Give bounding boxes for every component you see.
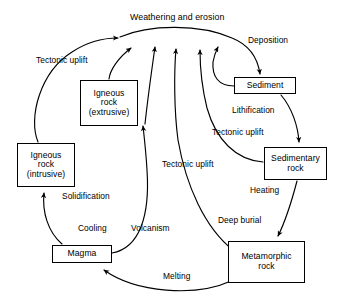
label-heating: Heating bbox=[250, 185, 279, 196]
node-line: Magma bbox=[68, 249, 97, 259]
label-tectonic-uplift-left: Tectonic uplift bbox=[36, 55, 88, 66]
label-tectonic-uplift-right: Tectonic uplift bbox=[212, 127, 264, 138]
node-metamorphic-rock: Metamorphic rock bbox=[228, 241, 305, 283]
edge-magma-to-weathering bbox=[145, 47, 155, 124]
label-solidification: Solidification bbox=[62, 191, 110, 202]
label-line: Volcanism bbox=[131, 223, 170, 233]
node-sedimentary-rock: Sedimentary rock bbox=[264, 147, 327, 180]
node-sediment: Sediment bbox=[234, 77, 296, 94]
label-line: uplift bbox=[246, 127, 264, 137]
label-tectonic-uplift-middle: Tectonic uplift bbox=[162, 159, 214, 170]
edge-sediment-to-sedimentary bbox=[281, 95, 299, 142]
label-line: Solidification bbox=[62, 191, 110, 201]
label-line: uplift bbox=[70, 55, 88, 65]
label-line: Tectonic bbox=[36, 55, 67, 65]
label-line: Lithification bbox=[232, 105, 275, 115]
label-line: Deposition bbox=[248, 35, 288, 45]
label-line: Cooling bbox=[78, 223, 107, 233]
edge-sedimentary-to-metamorphic bbox=[278, 181, 297, 236]
node-igneous-extrusive: Igneous rock (extrusive) bbox=[80, 80, 138, 126]
label-line: Heating bbox=[250, 185, 279, 195]
label-line: Tectonic bbox=[212, 127, 243, 137]
label-deep-burial: Deep burial bbox=[218, 215, 261, 226]
label-melting: Melting bbox=[163, 271, 190, 282]
edge-sediment-to-weathering bbox=[213, 47, 234, 86]
node-line: (intrusive) bbox=[27, 170, 65, 180]
edge-magma-to-igneous-intrusive bbox=[44, 193, 62, 244]
node-magma: Magma bbox=[52, 245, 112, 263]
label-line: Melting bbox=[163, 271, 190, 281]
node-igneous-intrusive: Igneous rock (intrusive) bbox=[17, 143, 75, 187]
label-lithification: Lithification bbox=[232, 105, 275, 116]
label-volcanism: Volcanism bbox=[131, 223, 170, 234]
label-deposition: Deposition bbox=[248, 35, 288, 46]
label-cooling: Cooling bbox=[78, 223, 107, 234]
label-line: Tectonic bbox=[162, 159, 193, 169]
node-line: rock bbox=[241, 262, 291, 272]
node-line: Sediment bbox=[247, 81, 284, 91]
diagram-title: Weathering and erosion bbox=[130, 12, 224, 22]
node-line: (extrusive) bbox=[89, 108, 130, 118]
label-line: uplift bbox=[196, 159, 214, 169]
edge-magma-to-igneous-extrusive bbox=[112, 126, 148, 253]
edge-weathering-to-sediment bbox=[120, 27, 260, 74]
rock-cycle-diagram: Weathering and erosion Igneous rock (ext… bbox=[0, 0, 342, 304]
edge-igneous-extrusive-to-weathering bbox=[109, 48, 131, 79]
label-line: Deep burial bbox=[218, 215, 261, 225]
node-line: rock bbox=[271, 164, 320, 174]
